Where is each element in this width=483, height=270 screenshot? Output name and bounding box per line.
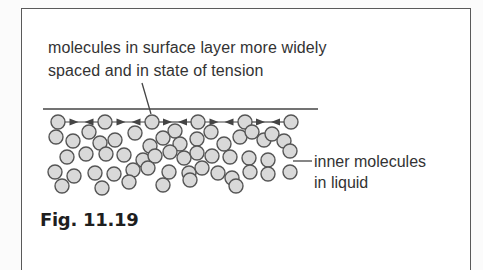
inner-molecules-label: inner molecules in liquid — [314, 151, 426, 193]
surface-molecule — [191, 115, 205, 129]
inner-molecule — [79, 147, 93, 161]
surface-molecule — [145, 115, 159, 129]
inner-molecule — [163, 145, 177, 159]
inner-molecule — [183, 173, 197, 187]
surface-molecule — [284, 115, 298, 129]
inner-molecule — [48, 165, 62, 179]
inner-molecule — [204, 125, 218, 139]
inner-molecule — [162, 165, 176, 179]
inner-molecule — [128, 126, 142, 140]
inner-molecule — [195, 161, 209, 175]
inner-molecule — [82, 125, 96, 139]
inner-molecule — [168, 124, 182, 138]
inner-molecule — [95, 181, 109, 195]
inner-molecule — [217, 137, 231, 151]
inner-molecule — [261, 153, 275, 167]
figure-number: Fig. 11.19 — [40, 209, 138, 230]
inner-molecule — [223, 150, 237, 164]
inner-molecule — [229, 179, 243, 193]
inner-label-line-1: inner molecules — [314, 151, 426, 172]
inner-molecule — [55, 179, 69, 193]
inner-molecule — [245, 125, 259, 139]
inner-molecule — [283, 165, 297, 179]
inner-molecule — [66, 134, 80, 148]
tension-arrow-pair — [252, 119, 284, 126]
inner-molecule — [88, 166, 102, 180]
inner-molecule — [156, 178, 170, 192]
inner-molecules — [48, 124, 297, 195]
inner-molecule — [49, 130, 63, 144]
inner-molecule — [108, 133, 122, 147]
inner-molecule — [283, 144, 297, 158]
inner-molecule — [67, 169, 81, 183]
inner-molecule — [190, 146, 204, 160]
inner-molecule — [211, 166, 225, 180]
inner-molecule — [261, 167, 275, 181]
inner-molecule — [60, 150, 74, 164]
surface-molecule — [98, 115, 112, 129]
inner-molecule — [107, 167, 121, 181]
inner-molecule — [205, 149, 219, 163]
inner-label-line-2: in liquid — [314, 172, 426, 193]
inner-molecule — [190, 132, 204, 146]
inner-molecule — [99, 147, 113, 161]
surface-molecule — [51, 115, 65, 129]
tension-arrow-pair — [65, 119, 98, 126]
inner-molecule — [117, 148, 131, 162]
inner-molecule — [122, 175, 136, 189]
tension-arrow-pair — [112, 119, 145, 126]
inner-molecule — [141, 161, 155, 175]
inner-molecule — [243, 165, 257, 179]
inner-molecule — [242, 151, 256, 165]
inner-molecule — [177, 151, 191, 165]
